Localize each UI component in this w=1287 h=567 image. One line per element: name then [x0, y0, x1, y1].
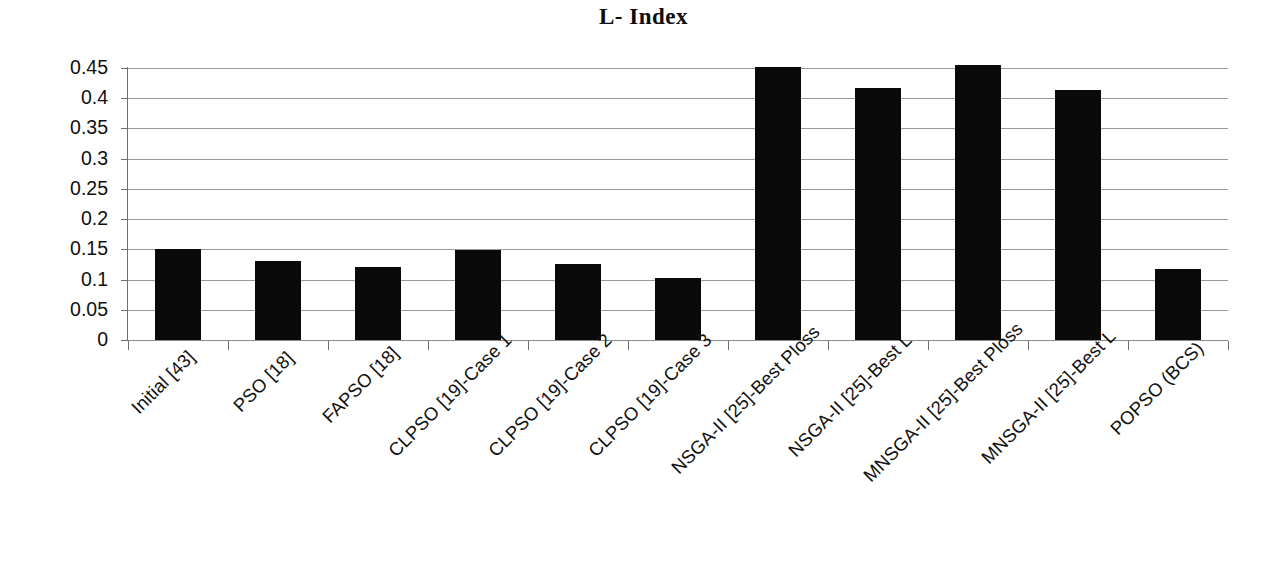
- y-axis-tick: [121, 280, 128, 281]
- y-axis-tick: [121, 249, 128, 250]
- x-axis-tick-label: NSGA-II [25]-Best L: [784, 329, 916, 461]
- y-axis-tick-label: 0.3: [30, 149, 108, 169]
- x-axis-tick-label: NSGA-II [25]-Best Ploss: [667, 321, 824, 478]
- y-axis-tick-label: 0.1: [30, 270, 108, 290]
- x-axis-tick: [528, 341, 529, 350]
- x-axis-tick-label: MNSGA-II [25]-Best L: [977, 326, 1120, 469]
- bar: [1155, 269, 1201, 340]
- y-axis-tick-label: 0.4: [30, 88, 108, 108]
- x-axis-tick: [328, 341, 329, 350]
- y-axis-tick: [121, 98, 128, 99]
- bar: [955, 65, 1001, 340]
- x-axis-tick: [928, 341, 929, 350]
- y-axis-tick-label: 0.2: [30, 209, 108, 229]
- gridline: [128, 340, 1228, 341]
- bar: [355, 267, 401, 340]
- y-axis-tick-label: 0.45: [30, 58, 108, 78]
- x-axis-tick-label: MNSGA-II [25]-Best Ploss: [859, 318, 1027, 486]
- y-axis-tick: [121, 68, 128, 69]
- bar-chart: L- Index 0.450.40.350.30.250.20.150.10.0…: [0, 0, 1287, 567]
- y-axis-tick-label: 0.05: [30, 300, 108, 320]
- y-axis-tick: [121, 340, 128, 341]
- x-axis-tick: [628, 341, 629, 350]
- x-axis-tick-label: CLPSO [19]-Case 1: [384, 329, 516, 461]
- bar: [655, 278, 701, 340]
- y-axis-tick-label: 0.25: [30, 179, 108, 199]
- x-axis-tick: [828, 341, 829, 350]
- x-axis-tick: [1128, 341, 1129, 350]
- bar: [855, 88, 901, 340]
- y-axis-tick: [121, 219, 128, 220]
- chart-title: L- Index: [0, 4, 1287, 30]
- y-axis-tick-label: 0.15: [30, 239, 108, 259]
- x-axis-tick: [1228, 341, 1229, 350]
- y-axis-tick: [121, 159, 128, 160]
- y-axis-tick: [121, 310, 128, 311]
- x-axis-tick-label: Initial [43]: [127, 346, 199, 418]
- y-axis-tick-label: 0: [30, 330, 108, 350]
- x-axis-tick: [228, 341, 229, 350]
- bar: [755, 67, 801, 340]
- plot-area: [128, 68, 1228, 340]
- bar: [555, 264, 601, 340]
- x-axis-tick: [1028, 341, 1029, 350]
- x-axis-tick-label: FAPSO [18]: [318, 343, 403, 428]
- bar: [1055, 90, 1101, 340]
- x-axis-tick-label: POPSO (BCS): [1106, 338, 1208, 440]
- bar: [255, 261, 301, 340]
- y-axis-tick: [121, 128, 128, 129]
- x-axis-tick-label: CLPSO [19]-Case 2: [484, 329, 616, 461]
- y-axis-tick: [121, 189, 128, 190]
- y-axis-tick-label: 0.35: [30, 118, 108, 138]
- x-axis-tick: [428, 341, 429, 350]
- x-axis-tick-label: PSO [18]: [229, 347, 298, 416]
- bar: [455, 250, 501, 340]
- x-axis-tick-label: CLPSO [19]-Case 3: [584, 329, 716, 461]
- x-axis-tick: [128, 341, 129, 350]
- bar: [155, 249, 201, 340]
- x-axis-tick: [728, 341, 729, 350]
- gridline: [128, 68, 1228, 69]
